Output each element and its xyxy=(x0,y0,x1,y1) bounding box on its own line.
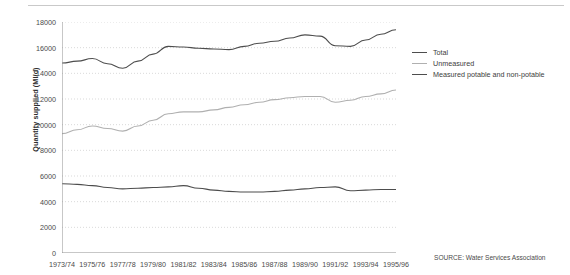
legend-swatch-line-icon xyxy=(412,63,427,64)
legend-swatch-line-icon xyxy=(412,52,427,53)
legend-item-label: Unmeasured xyxy=(433,59,474,68)
x-tick-label: 1977/78 xyxy=(110,260,136,269)
x-tick-label: 1975/76 xyxy=(79,260,105,269)
y-tick-label: 8000 xyxy=(40,146,56,155)
x-tick-label: 1973/74 xyxy=(49,260,75,269)
x-tick-label: 1979/80 xyxy=(140,260,166,269)
chart-figure: Quantity supplied (Ml/d) 020004000600080… xyxy=(0,0,570,275)
x-tick-label: 1991/92 xyxy=(322,260,348,269)
series-line xyxy=(62,184,396,192)
x-tick-label: 1993/94 xyxy=(353,260,379,269)
legend-swatch-line-icon xyxy=(412,74,427,75)
y-tick-label: 2000 xyxy=(40,223,56,232)
chart-legend: TotalUnmeasuredMeasured potable and non-… xyxy=(412,47,545,80)
y-tick-label: 10000 xyxy=(36,120,56,129)
series-group xyxy=(62,30,396,192)
x-tick-label: 1989/90 xyxy=(292,260,318,269)
y-tick-label: 4000 xyxy=(40,197,56,206)
y-tick-label: 14000 xyxy=(36,69,56,78)
x-tick-label: 1995/96 xyxy=(383,260,409,269)
plot-wrapper: 0200040006000800010000120001400016000180… xyxy=(62,22,396,253)
legend-item[interactable]: Measured potable and non-potable xyxy=(412,69,545,80)
y-axis-title: Quantity supplied (Ml/d) xyxy=(31,30,40,190)
gridlines-group xyxy=(62,22,396,227)
x-tick-label: 1981/82 xyxy=(170,260,196,269)
x-tick-label: 1983/84 xyxy=(201,260,227,269)
x-tick-label: 1987/88 xyxy=(262,260,288,269)
y-tick-label: 18000 xyxy=(36,18,56,27)
x-tick-label: 1985/86 xyxy=(231,260,257,269)
y-tick-label: 12000 xyxy=(36,95,56,104)
plot-area: 0200040006000800010000120001400016000180… xyxy=(62,22,396,253)
y-tick-label: 6000 xyxy=(40,172,56,181)
series-line xyxy=(62,90,396,134)
legend-item[interactable]: Total xyxy=(412,47,545,58)
series-line xyxy=(62,30,396,68)
legend-item[interactable]: Unmeasured xyxy=(412,58,545,69)
legend-item-label: Measured potable and non-potable xyxy=(433,70,545,79)
y-tick-label: 16000 xyxy=(36,43,56,52)
y-tick-label: 0 xyxy=(52,249,56,258)
line-chart-svg xyxy=(62,22,396,253)
source-note: SOURCE: Water Services Association xyxy=(434,254,546,261)
legend-item-label: Total xyxy=(433,48,448,57)
